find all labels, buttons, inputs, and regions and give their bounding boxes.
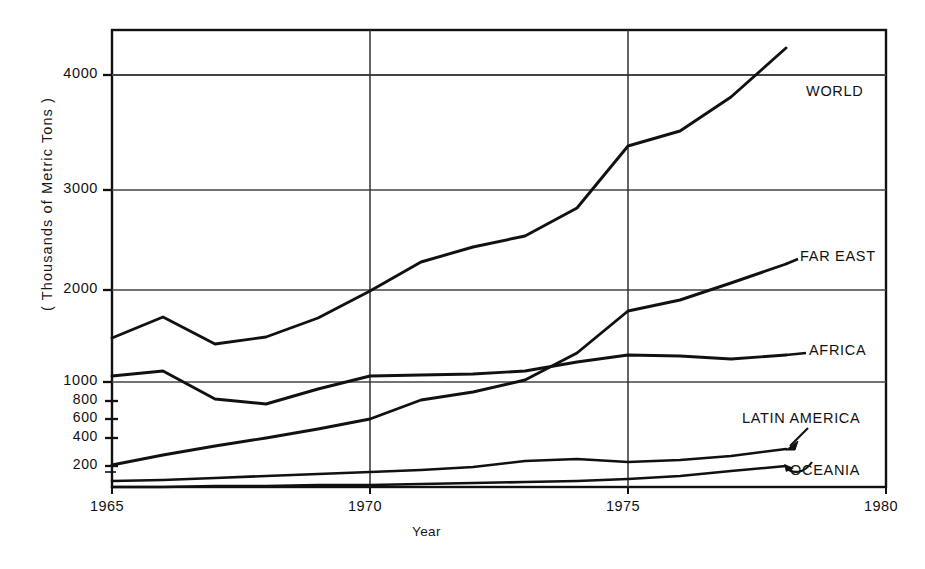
series-label-africa: AFRICA bbox=[809, 342, 866, 358]
gridlines-horizontal bbox=[112, 75, 886, 382]
x-tick-label-1980: 1980 bbox=[864, 498, 898, 514]
y-axis-ticks-major bbox=[103, 75, 112, 382]
series-label-world: WORLD bbox=[806, 83, 863, 99]
leader-line-africa bbox=[786, 353, 806, 355]
y-tick-label-1000: 1000 bbox=[30, 372, 98, 388]
chart-plot-area bbox=[0, 0, 925, 569]
x-tick-label-1975: 1975 bbox=[606, 498, 640, 514]
leader-line-far-east bbox=[786, 259, 798, 264]
x-axis-title: Year bbox=[412, 524, 441, 539]
y-tick-label-600: 600 bbox=[30, 409, 98, 425]
y-tick-label-800: 800 bbox=[30, 391, 98, 407]
series-label-latin-america: LATIN AMERICA bbox=[742, 410, 860, 426]
series-line-far-east bbox=[112, 264, 786, 465]
x-tick-label-1970: 1970 bbox=[348, 498, 382, 514]
y-tick-label-200: 200 bbox=[30, 456, 98, 472]
x-tick-label-1965: 1965 bbox=[90, 498, 124, 514]
y-axis-title: ( Thousands of Metric Tons ) bbox=[39, 39, 55, 369]
y-tick-label-400: 400 bbox=[30, 428, 98, 444]
series-label-far-east: FAR EAST bbox=[800, 248, 876, 264]
callout-arrow-latin-america bbox=[786, 428, 808, 450]
gridlines-vertical bbox=[370, 30, 628, 487]
chart-figure: 4000 3000 2000 1000 800 600 400 200 1965… bbox=[0, 0, 925, 569]
series-label-oceania: OCEANIA bbox=[790, 462, 860, 478]
